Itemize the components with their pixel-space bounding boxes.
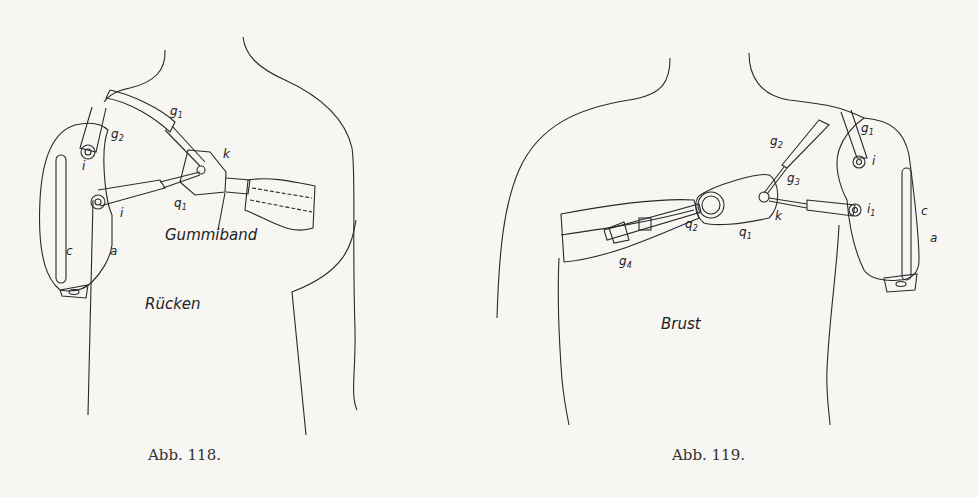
label-q1: q1 bbox=[174, 197, 187, 212]
label-g2: g2 bbox=[111, 128, 124, 143]
label-a: a bbox=[930, 232, 937, 244]
caption-abb-119: Abb. 119. bbox=[672, 446, 745, 464]
label-q1: q1 bbox=[739, 226, 752, 241]
label-k: k bbox=[223, 148, 230, 160]
label-gummiband: Gummiband bbox=[165, 228, 257, 243]
label-brust: Brust bbox=[661, 317, 701, 332]
back-view-illustration bbox=[0, 0, 489, 497]
label-c: c bbox=[921, 205, 928, 217]
label-q2: q2 bbox=[685, 218, 698, 233]
figure-abb-118: g1 g2 k i i q1 c a Gummiband Rücken Abb.… bbox=[0, 0, 489, 497]
caption-abb-118: Abb. 118. bbox=[148, 446, 221, 464]
label-a: a bbox=[110, 245, 117, 257]
label-g2: g2 bbox=[770, 135, 783, 150]
label-i1: i1 bbox=[867, 203, 875, 218]
label-k: k bbox=[775, 210, 782, 222]
label-i: i bbox=[872, 155, 875, 167]
front-view-illustration bbox=[489, 0, 978, 497]
label-i-mid: i bbox=[120, 207, 123, 219]
label-g4: g4 bbox=[619, 255, 632, 270]
label-g1: g1 bbox=[861, 122, 874, 137]
label-ruecken: Rücken bbox=[145, 297, 201, 312]
label-i-top: i bbox=[82, 160, 85, 172]
label-g3: g3 bbox=[787, 172, 800, 187]
label-g1: g1 bbox=[170, 105, 183, 120]
figure-abb-119: g1 g2 g3 g4 i i1 k q1 q2 c a Brust Abb. … bbox=[489, 0, 978, 497]
label-c: c bbox=[66, 245, 73, 257]
